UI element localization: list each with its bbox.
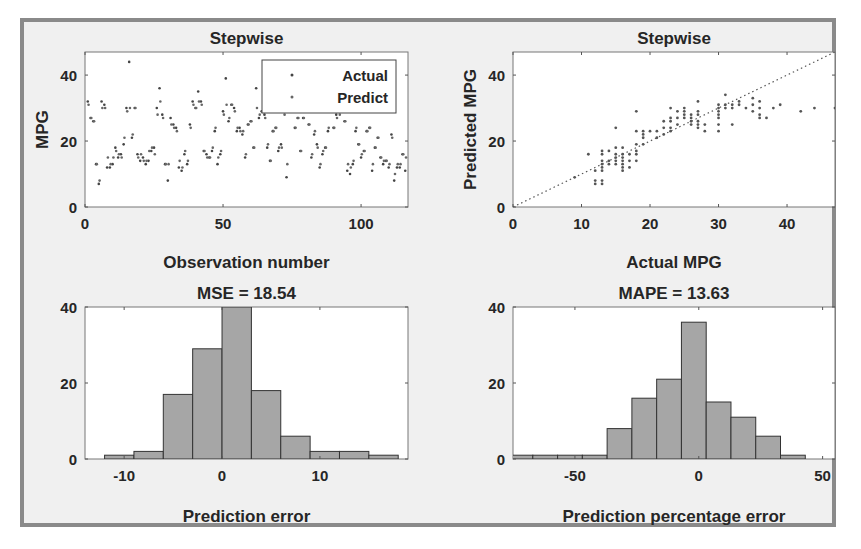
predict-marker [283, 113, 286, 116]
data-marker [642, 133, 645, 136]
actual-marker [313, 133, 316, 136]
actual-marker [213, 130, 216, 133]
actual-marker [136, 153, 139, 156]
data-marker [594, 179, 597, 182]
legend[interactable]: ActualPredict [262, 60, 396, 113]
data-marker [751, 103, 754, 106]
y-tick-label: 20 [60, 375, 77, 392]
predict-marker [123, 136, 126, 139]
data-marker [690, 113, 693, 116]
predict-marker [87, 103, 90, 106]
predict-marker [236, 127, 239, 130]
predict-marker [203, 150, 206, 153]
predict-marker [327, 127, 330, 130]
predict-marker [228, 117, 231, 120]
actual-marker [318, 166, 321, 169]
data-marker [573, 176, 576, 179]
histogram-bar [558, 455, 583, 459]
predict-marker [311, 153, 314, 156]
data-marker [738, 100, 741, 103]
x-tick-label: 30 [710, 215, 727, 232]
data-marker [608, 150, 611, 153]
data-marker [758, 117, 761, 120]
y-tick-label: 40 [60, 67, 77, 84]
data-marker [621, 146, 624, 149]
data-marker [779, 103, 782, 106]
data-marker [690, 120, 693, 123]
data-marker [608, 163, 611, 166]
data-marker [683, 113, 686, 116]
actual-marker [197, 90, 200, 93]
predict-marker [93, 120, 96, 123]
predict-marker [369, 127, 372, 130]
actual-vs-pred-axes: 01020304002040StepwiseActual MPGPredicte… [461, 29, 836, 272]
data-marker [655, 136, 658, 139]
data-marker [731, 123, 734, 126]
data-marker [676, 110, 679, 113]
predict-marker [350, 166, 353, 169]
data-marker [717, 107, 720, 110]
data-marker [697, 113, 700, 116]
predict-marker [405, 156, 408, 159]
y-tick-label: 20 [60, 133, 77, 150]
data-marker [703, 123, 706, 126]
predict-marker [258, 113, 261, 116]
data-marker [601, 183, 604, 186]
predict-marker [264, 117, 267, 120]
data-marker [601, 159, 604, 162]
data-marker [717, 103, 720, 106]
predict-marker [187, 160, 190, 163]
predict-marker [154, 153, 157, 156]
predict-marker [162, 117, 165, 120]
data-marker [765, 117, 768, 120]
predict-marker [267, 143, 270, 146]
actual-marker [219, 153, 222, 156]
pct-err-hist-axes: -5005002040MAPE = 13.63Prediction percen… [488, 284, 835, 526]
predict-marker [338, 113, 341, 116]
data-marker [717, 113, 720, 116]
predict-marker [223, 113, 226, 116]
predict-marker [195, 107, 198, 110]
y-tick-label: 40 [488, 67, 505, 84]
predict-marker [156, 113, 159, 116]
data-marker [601, 163, 604, 166]
actual-marker [404, 169, 407, 172]
actual-marker [103, 103, 106, 106]
predict-marker [178, 160, 181, 163]
data-marker [697, 110, 700, 113]
legend-marker-icon [291, 74, 294, 77]
actual-marker [106, 166, 109, 169]
actual-marker [258, 117, 261, 120]
predict-marker [253, 146, 256, 149]
histogram-bar [533, 455, 558, 459]
predict-marker [377, 136, 380, 139]
histogram-bar [781, 455, 806, 459]
data-marker [669, 130, 672, 133]
predict-marker [347, 163, 350, 166]
data-marker [799, 110, 802, 113]
actual-marker [263, 113, 266, 116]
predict-marker [297, 117, 300, 120]
histogram-bar [163, 394, 192, 459]
predict-marker [286, 163, 289, 166]
data-marker [614, 156, 617, 159]
y-tick-label: 0 [497, 199, 505, 216]
data-marker [621, 163, 624, 166]
x-tick-label: 20 [642, 215, 659, 232]
predict-marker [209, 156, 212, 159]
actual-marker [128, 61, 131, 64]
x-tick-label: 40 [779, 215, 796, 232]
x-tick-label: 100 [349, 215, 374, 232]
data-marker [635, 130, 638, 133]
predict-marker [352, 160, 355, 163]
predict-marker [120, 156, 123, 159]
histogram-bar [251, 391, 280, 459]
data-marker [601, 153, 604, 156]
data-marker [717, 123, 720, 126]
x-tick-label: 10 [573, 215, 590, 232]
data-marker [690, 117, 693, 120]
data-marker [758, 113, 761, 116]
predict-marker [134, 107, 137, 110]
data-marker [745, 107, 748, 110]
data-marker [635, 153, 638, 156]
